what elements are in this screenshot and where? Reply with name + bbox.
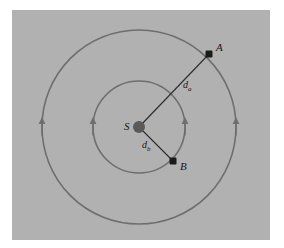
figure-root: S A B da db [0, 0, 284, 248]
direction-marker-inner-right [182, 117, 189, 135]
distance-da-subscript: a [188, 85, 192, 93]
radius-line-sa [139, 54, 209, 127]
direction-marker-outer-right [233, 117, 240, 135]
point-a-marker [206, 51, 213, 58]
direction-marker-outer-left [39, 117, 46, 135]
label-distance-db: db [142, 140, 151, 153]
label-center-s: S [124, 121, 130, 132]
orbit-diagram-svg [0, 0, 284, 248]
distance-db-subscript: b [147, 145, 151, 153]
central-body-marker [133, 121, 145, 133]
label-distance-da: da [183, 80, 192, 93]
direction-marker-inner-left [90, 117, 97, 135]
label-point-b: B [180, 161, 187, 172]
point-b-marker [170, 158, 177, 165]
label-point-a: A [216, 42, 223, 53]
